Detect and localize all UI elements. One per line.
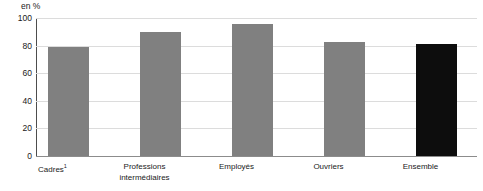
y-tick-label: 40 bbox=[2, 97, 32, 106]
y-tick-label: 60 bbox=[2, 69, 32, 78]
category-label-employes: Employés bbox=[192, 161, 281, 172]
footnote-marker: 1 bbox=[64, 163, 67, 169]
plot-area bbox=[36, 18, 477, 156]
category-label-cadres: Cadres1 bbox=[8, 161, 97, 175]
y-tick-label: 0 bbox=[2, 152, 32, 161]
category-label-ensemble: Ensemble bbox=[376, 161, 465, 172]
category-label-ouvriers: Ouvriers bbox=[284, 161, 373, 172]
bar-ouvriers bbox=[324, 42, 365, 157]
category-label-text: Ouvriers bbox=[313, 162, 343, 171]
y-tick-label: 100 bbox=[2, 14, 32, 23]
bar-chart: en % 100 80 60 40 20 0 Cadres1 Professio… bbox=[0, 0, 483, 191]
bar-professions-intermediaires bbox=[140, 32, 181, 156]
category-label-professions-intermediaires: Professions intermédiaires bbox=[100, 161, 189, 183]
category-label-text-line2: intermédiaires bbox=[100, 172, 189, 183]
category-label-text: Professions bbox=[124, 162, 166, 171]
bar-employes bbox=[232, 24, 273, 157]
bar-cadres bbox=[48, 47, 89, 156]
gridline-100 bbox=[36, 18, 477, 19]
bar-ensemble bbox=[416, 44, 457, 156]
category-label-text: Ensemble bbox=[403, 162, 439, 171]
category-label-text: Cadres bbox=[38, 165, 64, 174]
y-tick-label: 20 bbox=[2, 124, 32, 133]
category-label-text: Employés bbox=[219, 162, 254, 171]
y-tick-label: 80 bbox=[2, 42, 32, 51]
